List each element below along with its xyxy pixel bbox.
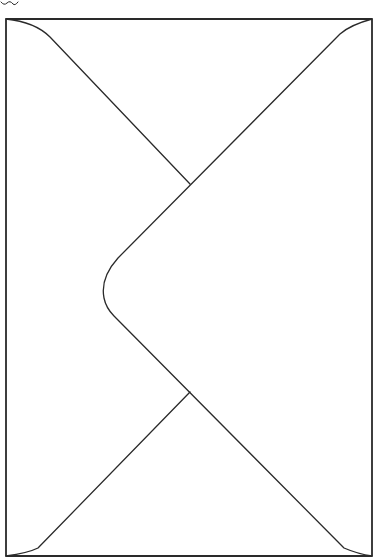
scribble-mark bbox=[1, 2, 18, 5]
envelope-drawing bbox=[0, 0, 378, 560]
envelope-border bbox=[6, 19, 372, 556]
envelope-flap bbox=[103, 19, 372, 556]
left-bottom-fold-line bbox=[6, 392, 190, 556]
left-top-fold-line bbox=[6, 19, 190, 184]
